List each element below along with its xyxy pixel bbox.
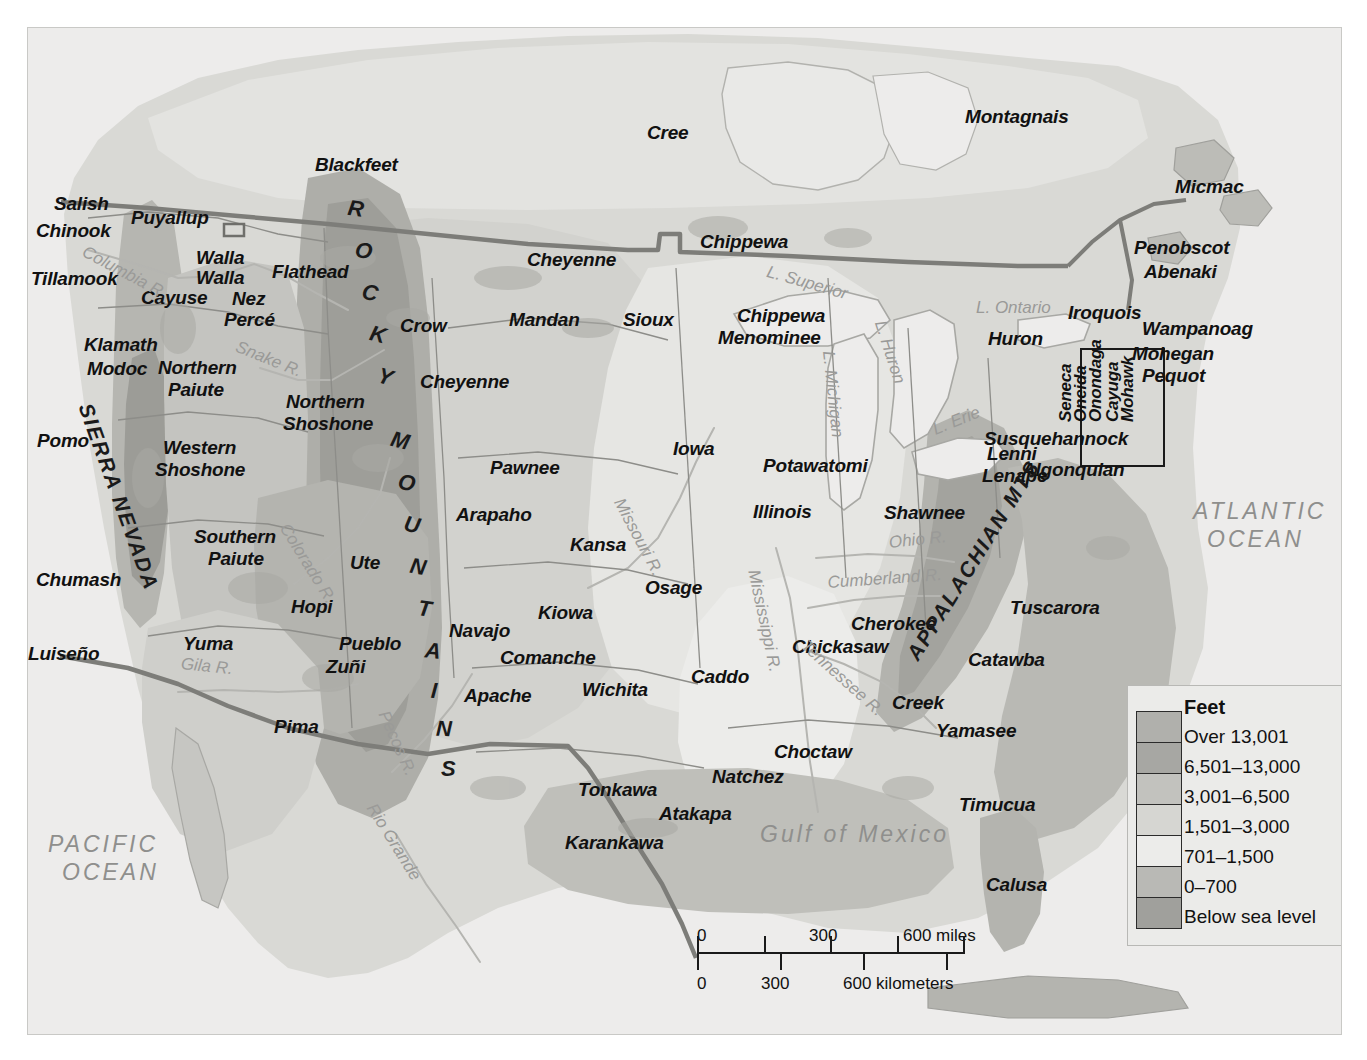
- tribe-label-perc-8: Percé: [224, 310, 275, 330]
- legend-swatch-4: [1137, 836, 1181, 867]
- tribe-label-karankawa-77: Karankawa: [565, 833, 664, 853]
- tribe-label-zui-62: Zuñi: [326, 657, 365, 677]
- hydro-label-lake-ontario: L. Ontario: [976, 298, 1051, 318]
- scale-miles-labels: 0 300 600 miles: [697, 926, 977, 946]
- legend-label-3: 1,501–3,000: [1184, 812, 1316, 842]
- tribe-label-yuma-59: Yuma: [183, 634, 233, 654]
- tribe-label-pueblo-60: Pueblo: [339, 634, 401, 654]
- legend-label-0: Over 13,001: [1184, 722, 1316, 752]
- map-frame: Feet Over 13,0016,501–13,0003,001–6,5001…: [27, 27, 1342, 1035]
- tribe-label-micmac-13: Micmac: [1175, 177, 1244, 197]
- tribe-label-ute-51: Ute: [350, 553, 380, 573]
- rocky-mountains-letter-12: N: [436, 716, 453, 743]
- tribe-label-natchez-73: Natchez: [712, 767, 783, 787]
- legend-swatch-0: [1137, 712, 1181, 743]
- tribe-label-paiute-28: Paiute: [168, 380, 224, 400]
- tribe-label-kiowa-55: Kiowa: [538, 603, 593, 623]
- tribe-label-shoshone-37: Shoshone: [155, 460, 245, 480]
- tribe-label-atakapa-76: Atakapa: [659, 804, 732, 824]
- tribe-label-chinook-1: Chinook: [36, 221, 111, 241]
- legend-label-1: 6,501–13,000: [1184, 752, 1316, 782]
- scale-bar: 0 300 600 miles 0 300 600 kilometers: [697, 926, 977, 1000]
- tribe-label-shawnee-46: Shawnee: [884, 503, 965, 523]
- tribe-label-modoc-26: Modoc: [87, 359, 147, 379]
- tribe-label-paiute-49: Paiute: [208, 549, 264, 569]
- tribe-label-huron-20: Huron: [988, 329, 1043, 349]
- scale-km-labels: 0 300 600 kilometers: [697, 974, 977, 994]
- tribe-label-flathead-9: Flathead: [272, 262, 349, 282]
- legend-title: Feet: [1184, 696, 1225, 719]
- tribe-label-iowa-38: Iowa: [673, 439, 714, 459]
- ocean-label-line: OCEAN: [62, 858, 159, 886]
- legend-label-2: 3,001–6,500: [1184, 782, 1316, 812]
- tribe-label-arapaho-47: Arapaho: [456, 505, 532, 525]
- tribe-label-chippewa-17: Chippewa: [700, 232, 788, 252]
- tribe-label-shoshone-34: Shoshone: [283, 414, 373, 434]
- ocean-label-atlantic-ocean: ATLANTICOCEAN: [1193, 497, 1326, 553]
- ocean-label-gulf-of-mexico: Gulf of Mexico: [760, 820, 949, 848]
- legend-swatch-3: [1137, 805, 1181, 836]
- tribe-label-blackfeet-10: Blackfeet: [315, 155, 398, 175]
- legend-labels: Over 13,0016,501–13,0003,001–6,5001,501–…: [1184, 722, 1316, 932]
- tribe-label-mohegan-23: Mohegan: [1132, 344, 1214, 364]
- tribe-label-tonkawa-74: Tonkawa: [578, 780, 657, 800]
- tribe-label-cree-11: Cree: [647, 123, 688, 143]
- ocean-label-line: OCEAN: [1207, 525, 1326, 553]
- tribe-label-comanche-63: Comanche: [500, 648, 596, 668]
- tribe-label-creek-69: Creek: [892, 693, 944, 713]
- tribe-label-crow-29: Crow: [400, 316, 447, 336]
- ocean-label-line: PACIFIC: [48, 830, 159, 858]
- tribe-label-navajo-61: Navajo: [449, 621, 510, 641]
- tribe-label-wampanoag-22: Wampanoag: [1142, 319, 1253, 339]
- tribe-label-northern-27: Northern: [158, 358, 237, 378]
- rocky-mountains-letter-13: S: [441, 756, 456, 782]
- elevation-legend: Feet Over 13,0016,501–13,0003,001–6,5001…: [1127, 685, 1342, 946]
- tribe-label-southern-48: Southern: [194, 527, 276, 547]
- tribe-label-calusa-78: Calusa: [986, 875, 1047, 895]
- legend-label-4: 701–1,500: [1184, 842, 1316, 872]
- tribe-label-salish-0: Salish: [54, 194, 109, 214]
- scale-tick-mi1: 300: [809, 926, 837, 946]
- tribe-label-chippewa-18: Chippewa: [737, 306, 825, 326]
- tribe-label-pawnee-44: Pawnee: [490, 458, 560, 478]
- tribe-label-nez-7: Nez: [232, 289, 265, 309]
- tribe-label-northern-33: Northern: [286, 392, 365, 412]
- tribe-label-puyallup-2: Puyallup: [131, 208, 209, 228]
- ocean-label-line: Gulf of Mexico: [760, 820, 949, 848]
- tribe-label-catawba-65: Catawba: [968, 650, 1045, 670]
- tribe-label-potawatomi-39: Potawatomi: [763, 456, 868, 476]
- tribe-label-pima-70: Pima: [274, 717, 319, 737]
- tribe-label-wichita-67: Wichita: [582, 680, 648, 700]
- tribe-label-klamath-25: Klamath: [84, 335, 158, 355]
- tribe-label-caddo-68: Caddo: [691, 667, 749, 687]
- tribe-label-montagnais-12: Montagnais: [965, 107, 1069, 127]
- tribe-label-kansa-50: Kansa: [570, 535, 626, 555]
- tribe-label-apache-66: Apache: [464, 686, 531, 706]
- tribe-label-mandan-30: Mandan: [509, 310, 580, 330]
- legend-label-5: 0–700: [1184, 872, 1316, 902]
- tribe-label-walla-5: Walla: [196, 268, 244, 288]
- rocky-mountains-letter-10: A: [424, 637, 443, 665]
- legend-swatch-1: [1137, 743, 1181, 774]
- tribe-label-pomo-35: Pomo: [37, 431, 89, 451]
- tribe-label-menominee-19: Menominee: [718, 328, 821, 348]
- tribe-label-penobscot-14: Penobscot: [1134, 238, 1229, 258]
- ocean-label-line: ATLANTIC: [1193, 497, 1326, 525]
- tribe-label-walla-4: Walla: [196, 248, 244, 268]
- tribe-label-western-36: Western: [163, 438, 236, 458]
- legend-swatch-2: [1137, 774, 1181, 805]
- tribe-label-chumash-52: Chumash: [36, 570, 121, 590]
- scale-tick-km2: 600 kilometers: [843, 974, 954, 994]
- map-root: Feet Over 13,0016,501–13,0003,001–6,5001…: [0, 0, 1367, 1060]
- legend-swatch-6: [1137, 898, 1181, 928]
- tribe-label-pequot-24: Pequot: [1142, 366, 1205, 386]
- tribe-label-iroquois-21: Iroquois: [1068, 303, 1141, 323]
- tribe-label-tuscarora-56: Tuscarora: [1010, 598, 1100, 618]
- tribe-label-luiseo-58: Luiseño: [28, 644, 99, 664]
- legend-swatches: [1136, 711, 1182, 929]
- tribe-label-cheyenne-32: Cheyenne: [420, 372, 509, 392]
- tribe-label-susquehannock-42: Susquehannock: [984, 429, 1128, 449]
- tribe-label-yamasee-71: Yamasee: [936, 721, 1016, 741]
- legend-label-6: Below sea level: [1184, 902, 1316, 932]
- tribe-label-timucua-75: Timucua: [959, 795, 1035, 815]
